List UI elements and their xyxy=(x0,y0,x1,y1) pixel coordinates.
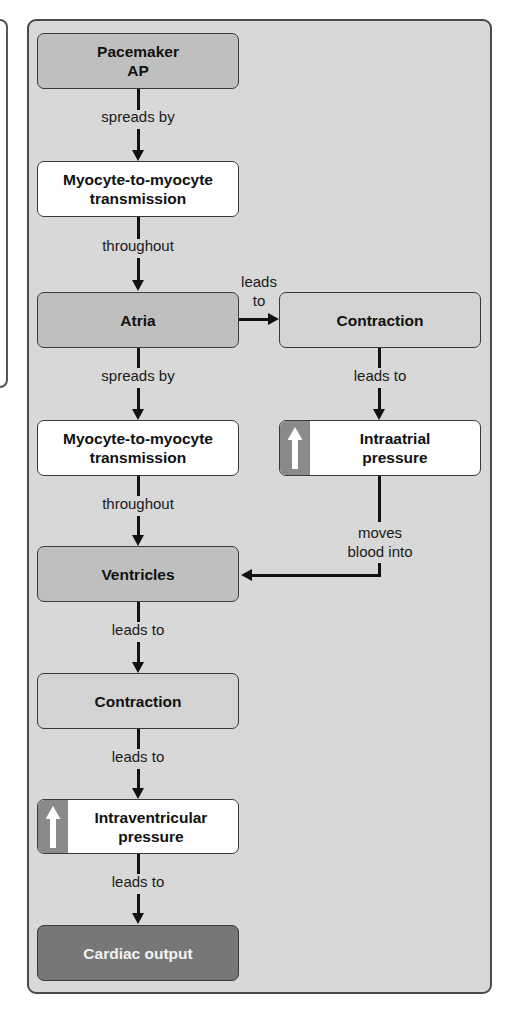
node-atrial-contraction: Contraction xyxy=(279,292,481,348)
arrow-down-icon xyxy=(132,280,144,291)
connector-line xyxy=(137,602,140,622)
edge-label-throughout: throughout xyxy=(78,494,198,514)
node-label: Myocyte-to-myocyte transmission xyxy=(63,170,213,208)
connector-line xyxy=(137,769,140,789)
connector-line xyxy=(251,574,381,577)
edge-label-leads-to: leads to xyxy=(78,747,198,767)
node-label: Contraction xyxy=(337,311,424,330)
edge-label-leads-to: leads to xyxy=(234,272,284,310)
edge-label-leads-to: leads to xyxy=(78,872,198,892)
connector-line xyxy=(239,318,269,321)
connector-line xyxy=(378,388,381,410)
adjacent-panel-edge xyxy=(0,19,8,388)
node-label: Myocyte-to-myocyte transmission xyxy=(63,429,213,467)
edge-label-spreads-by: spreads by xyxy=(78,366,198,386)
up-arrow-icon xyxy=(280,421,310,475)
node-label: Intraatrial pressure xyxy=(310,429,480,467)
arrow-left-icon xyxy=(241,569,252,581)
connector-line xyxy=(137,516,140,536)
connector-line xyxy=(137,854,140,874)
edge-label-throughout: throughout xyxy=(78,236,198,256)
node-label: Contraction xyxy=(95,692,182,711)
node-cardiac-output: Cardiac output xyxy=(37,925,239,981)
up-arrow-icon xyxy=(38,800,68,853)
connector-line xyxy=(378,476,381,522)
arrow-down-icon xyxy=(373,409,385,420)
node-myocyte-transmission-2: Myocyte-to-myocyte transmission xyxy=(37,420,239,476)
connector-line xyxy=(137,476,140,496)
edge-label-moves-blood-into: moves blood into xyxy=(318,523,442,561)
node-ventricular-contraction: Contraction xyxy=(37,673,239,729)
connector-line xyxy=(378,348,381,368)
connector-line xyxy=(137,348,140,368)
connector-line xyxy=(137,388,140,410)
node-label: Intraventricular pressure xyxy=(68,808,238,846)
arrow-down-icon xyxy=(132,409,144,420)
node-label: Ventricles xyxy=(101,565,174,584)
node-label: Cardiac output xyxy=(83,944,192,963)
connector-line xyxy=(137,642,140,663)
arrow-down-icon xyxy=(132,913,144,924)
edge-label-spreads-by: spreads by xyxy=(78,107,198,127)
edge-label-leads-to: leads to xyxy=(320,366,440,386)
node-myocyte-transmission-1: Myocyte-to-myocyte transmission xyxy=(37,161,239,217)
arrow-down-icon xyxy=(132,662,144,673)
connector-line xyxy=(137,258,140,281)
arrow-down-icon xyxy=(132,150,144,161)
node-pacemaker-ap: Pacemaker AP xyxy=(37,33,239,89)
node-ventricles: Ventricles xyxy=(37,546,239,602)
node-atria: Atria xyxy=(37,292,239,348)
arrow-down-icon xyxy=(132,788,144,799)
connector-line xyxy=(137,729,140,749)
edge-label-leads-to: leads to xyxy=(78,620,198,640)
arrow-right-icon xyxy=(268,313,279,325)
node-intraventricular-pressure: Intraventricular pressure xyxy=(37,799,239,854)
node-label: Atria xyxy=(120,311,155,330)
connector-line xyxy=(137,894,140,914)
node-intraatrial-pressure: Intraatrial pressure xyxy=(279,420,481,476)
connector-line xyxy=(137,129,140,151)
arrow-down-icon xyxy=(132,535,144,546)
node-label: Pacemaker AP xyxy=(97,42,179,80)
